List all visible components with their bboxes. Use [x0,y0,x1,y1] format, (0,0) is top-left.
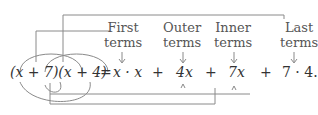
term-outer: 4x [176,64,193,80]
plus-sign: + [152,64,164,80]
last-terms-label: Lastterms [280,20,318,50]
term-inner: 7x [228,64,245,80]
arc-lower-2 [45,82,61,92]
foil-diagram: Firstterms Outerterms Innerterms Lastter… [0,0,318,115]
outer-terms-label: Outerterms [163,20,201,50]
plus-sign: + [260,64,272,80]
term-first: x · x [113,64,142,80]
first-terms-bracket [36,31,110,62]
arrow-up-inner-icon [232,86,236,90]
plus-sign: + [205,64,217,80]
inner-terms-label: Innerterms [214,20,252,50]
first-terms-label: Firstterms [104,20,142,50]
lhs-expression: (x + 7)(x + 4) [10,64,107,80]
equals-sign: = [100,64,112,80]
term-last: 7 · 4. [282,64,318,80]
connector-lines [0,0,318,115]
arrow-up-outer-icon [181,84,185,88]
